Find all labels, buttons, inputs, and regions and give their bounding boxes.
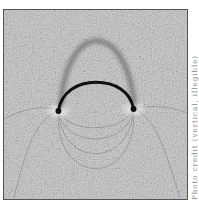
iron-filings-photo — [3, 9, 188, 200]
photo-credit-text: Photo credit (vertical, illegible) — [191, 55, 199, 200]
magnet-pole-left — [55, 108, 61, 114]
photo-credit: Photo credit (vertical, illegible) — [189, 10, 199, 200]
field-pattern — [4, 10, 187, 199]
magnet-pole-right — [131, 106, 137, 112]
